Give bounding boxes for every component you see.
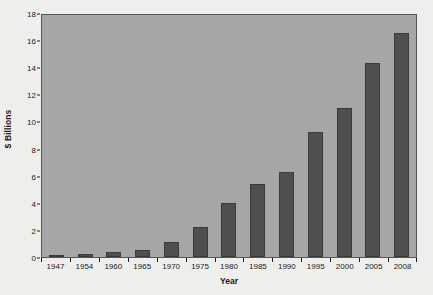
x-axis-tick-mark [41, 258, 42, 262]
x-axis-tick-label: 1970 [157, 262, 186, 271]
x-axis-tick-mark [416, 258, 417, 262]
bar-chart-figure: $ Billions 024681012141618 1947195419601… [0, 0, 433, 295]
x-axis-tick-label: 1954 [70, 262, 99, 271]
bar-slot [330, 15, 359, 257]
y-axis-tick-mark [37, 41, 40, 42]
y-axis-tick-label: 12 [27, 91, 36, 100]
bar-slot [272, 15, 301, 257]
x-axis-tick-label: 2000 [330, 262, 359, 271]
bar-slot [71, 15, 100, 257]
bar [221, 203, 236, 257]
x-axis-tick-mark [157, 258, 158, 262]
bar-slot [243, 15, 272, 257]
bar [279, 172, 294, 257]
bar-slot [186, 15, 215, 257]
x-axis-tick-mark [70, 258, 71, 262]
x-axis-label-row: 1947195419601965197019751980198519901995… [41, 262, 417, 271]
y-axis-tick-mark [37, 122, 40, 123]
bar-slot [128, 15, 157, 257]
x-axis-title: Year [41, 276, 417, 286]
y-axis-tick-label: 16 [27, 37, 36, 46]
bar [135, 250, 150, 257]
bar-series [42, 15, 416, 257]
bar [337, 108, 352, 257]
bar-slot [100, 15, 129, 257]
bar [49, 255, 64, 257]
x-axis-tick-label: 1975 [186, 262, 215, 271]
bar-slot [387, 15, 416, 257]
y-axis-tick-mark [37, 176, 40, 177]
x-axis-tick-label: 1960 [99, 262, 128, 271]
bar-slot [42, 15, 71, 257]
bar-slot [358, 15, 387, 257]
bar [78, 254, 93, 257]
bar-slot [157, 15, 186, 257]
bar [164, 242, 179, 257]
bar [250, 184, 265, 257]
x-axis-tick-mark [186, 258, 187, 262]
y-axis-tick-mark [37, 258, 40, 259]
x-axis-tick-label: 2005 [359, 262, 388, 271]
y-axis-tick-mark [37, 149, 40, 150]
y-axis-tick-mark [37, 95, 40, 96]
y-axis-tick-label: 0 [32, 254, 36, 263]
y-axis-tick-label: 4 [32, 199, 36, 208]
y-axis-title-text: $ Billions [3, 110, 13, 149]
y-axis-tick-label: 14 [27, 64, 36, 73]
bar-slot [301, 15, 330, 257]
x-axis-tick-mark [388, 258, 389, 262]
x-axis-tick-label: 1995 [301, 262, 330, 271]
x-axis-tick-labels: 1947195419601965197019751980198519901995… [41, 258, 417, 278]
x-axis-tick-mark [215, 258, 216, 262]
x-axis-tick-mark [128, 258, 129, 262]
y-axis-tick-mark [37, 230, 40, 231]
y-axis-tick-label: 6 [32, 172, 36, 181]
y-axis-tick-label: 2 [32, 226, 36, 235]
y-axis-tick-mark [37, 68, 40, 69]
x-axis-tick-mark [272, 258, 273, 262]
x-axis-tick-label: 1947 [41, 262, 70, 271]
x-axis-tick-label: 1990 [272, 262, 301, 271]
y-axis-tick-labels: 024681012141618 [14, 0, 40, 295]
bar [365, 63, 380, 257]
x-axis-tick-mark [330, 258, 331, 262]
y-axis-tick-label: 18 [27, 10, 36, 19]
x-axis-tick-mark [301, 258, 302, 262]
x-axis-tick-label: 1965 [128, 262, 157, 271]
plot-area [41, 14, 417, 258]
bar [106, 252, 121, 257]
x-axis-tick-label: 1985 [243, 262, 272, 271]
x-axis-tick-mark [243, 258, 244, 262]
x-axis-tick-mark [359, 258, 360, 262]
y-axis-tick-mark [37, 14, 40, 15]
bar [394, 33, 409, 257]
bar-slot [215, 15, 244, 257]
y-axis-tick-label: 10 [27, 118, 36, 127]
x-axis-tick-mark [99, 258, 100, 262]
x-axis-tick-label: 2008 [388, 262, 417, 271]
y-axis-tick-mark [37, 203, 40, 204]
x-axis-tick-label: 1980 [215, 262, 244, 271]
y-axis-tick-label: 8 [32, 145, 36, 154]
bar [308, 132, 323, 257]
bar [193, 227, 208, 257]
